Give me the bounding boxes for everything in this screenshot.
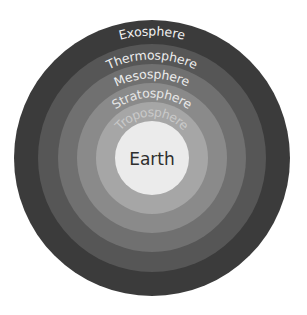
- atmosphere-layers-diagram: ExosphereThermosphereMesosphereStratosph…: [0, 0, 307, 315]
- earth-label: Earth: [129, 149, 175, 169]
